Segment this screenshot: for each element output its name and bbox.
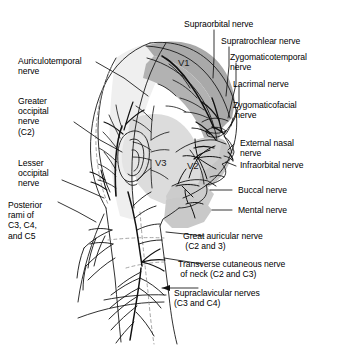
label-lesser-occipital-nerve: Lesser occipital nerve: [18, 158, 49, 189]
label-lacrimal-nerve: Lacrimal nerve: [233, 79, 289, 89]
supraclavicular-twigs: [109, 272, 164, 343]
label-supraclavicular-nerves: Supraclavicular nerves (C3 and C4): [174, 288, 260, 308]
label-buccal-nerve: Buccal nerve: [238, 185, 287, 195]
label-great-auricular-nerve: Great auricular nerve (C2 and 3): [183, 231, 263, 251]
territory-marker-v2: V2: [187, 160, 199, 171]
leader-arrowheads: [162, 285, 170, 291]
leader-posterior-rami: [58, 202, 96, 222]
label-posterior-rami: Posterior rami of C3, C4, and C5: [8, 200, 42, 241]
label-external-nasal-nerve: External nasal nerve: [240, 138, 294, 158]
posterior-rami-branches: [77, 229, 115, 291]
label-zygomaticofacial-nerve: Zygomaticofacial nerve: [233, 100, 297, 120]
neck-front: [160, 226, 177, 344]
label-supratrochlear-nerve: Supratrochlear nerve: [221, 36, 300, 46]
label-mental-nerve: Mental nerve: [238, 205, 287, 215]
label-auriculotemporal-nerve: Auriculotemporal nerve: [18, 56, 82, 76]
label-infraorbital-nerve: Infraorbital nerve: [240, 160, 304, 170]
territory-marker-v3: V3: [155, 157, 167, 168]
label-zygomaticotemporal-nerve: Zygomaticotemporal nerve: [230, 52, 307, 72]
label-supraorbital-nerve: Supraorbital nerve: [184, 19, 253, 29]
nerve-diagram-figure: Supraorbital nerve Supratrochlear nerve …: [0, 0, 338, 354]
label-transverse-cutaneous-nerve: Transverse cutaneous nerve of neck (C2 a…: [178, 259, 285, 279]
territory-marker-v1: V1: [178, 57, 190, 68]
arrowhead-supraclavicular: [162, 285, 170, 291]
shoulder-line: [78, 302, 164, 318]
label-greater-occipital-nerve: Greater occipital nerve (C2): [18, 96, 49, 137]
trapezius-contour: [78, 214, 104, 302]
dashed-reference-jaw: [108, 238, 164, 240]
